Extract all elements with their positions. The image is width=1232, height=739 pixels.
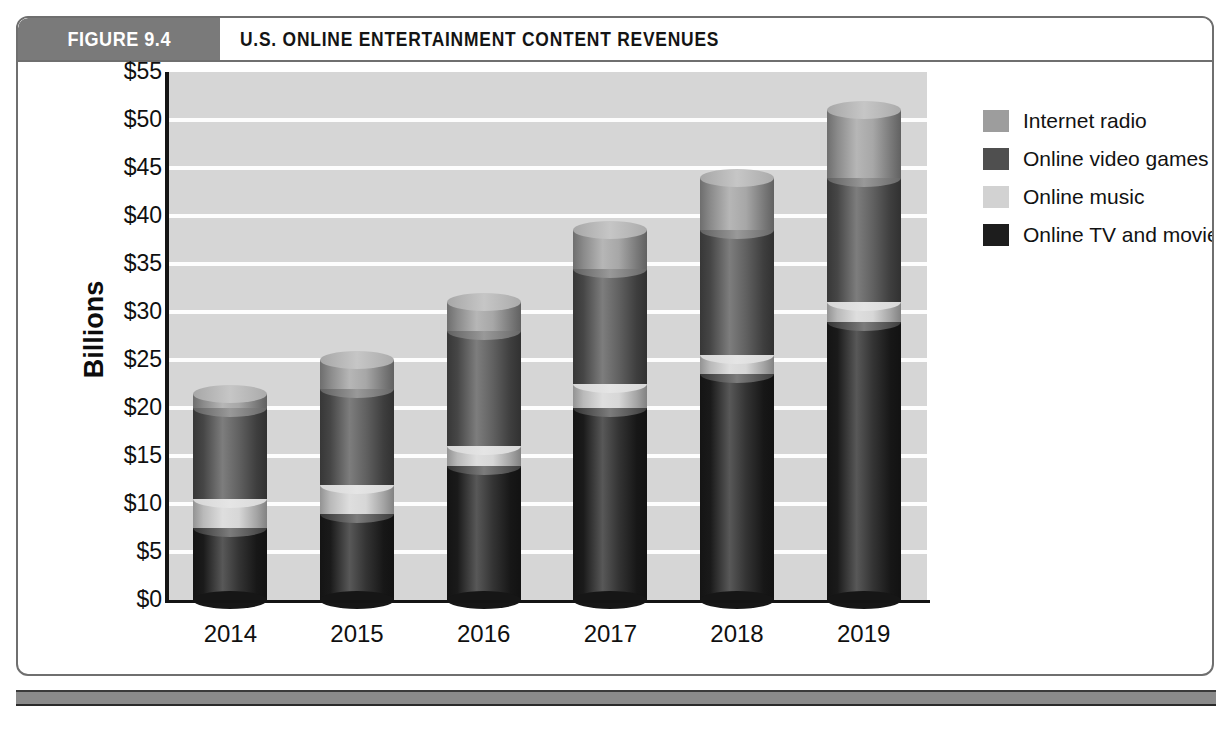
chart-area: Billions $55$50$45$40$35$30$25$20$15$10$… <box>18 62 1212 676</box>
bar-segment[interactable] <box>193 528 267 600</box>
bar-segment[interactable] <box>700 374 774 600</box>
figure-footer-bar <box>16 690 1216 706</box>
y-axis-tick-label: $50 <box>76 108 162 131</box>
bar-segment-body <box>447 331 521 446</box>
figure-number-tab: FIGURE 9.4 <box>18 18 220 60</box>
bar-segment[interactable] <box>827 302 901 321</box>
x-axis-tick-label: 2018 <box>674 620 801 648</box>
bar-segment-body <box>320 514 394 600</box>
y-axis-tick-label: $55 <box>76 60 162 83</box>
bar-segment[interactable] <box>320 514 394 600</box>
x-axis-tick-label: 2017 <box>547 620 674 648</box>
bar-segment-body <box>827 322 901 600</box>
bar-segment-body <box>447 466 521 600</box>
bar-segment[interactable] <box>320 360 394 389</box>
legend-item[interactable]: Online TV and movies <box>983 218 1203 252</box>
bar-group[interactable] <box>294 72 421 600</box>
bar-segment[interactable] <box>320 389 394 485</box>
chart-legend: Internet radioOnline video gamesOnline m… <box>983 104 1203 256</box>
bar-group[interactable] <box>547 72 674 600</box>
y-axis-tick-labels: $55$50$45$40$35$30$25$20$15$10$5$0 <box>66 62 162 610</box>
bar-segment[interactable] <box>827 110 901 177</box>
bar-group[interactable] <box>167 72 294 600</box>
bar-segment-body <box>193 408 267 499</box>
bar-segment[interactable] <box>827 178 901 303</box>
bar-segment[interactable] <box>573 230 647 268</box>
y-axis-tick-label: $10 <box>76 492 162 515</box>
y-axis-tick-label: $15 <box>76 444 162 467</box>
bar-segment[interactable] <box>700 178 774 231</box>
legend-swatch-icon <box>983 186 1009 208</box>
y-axis-tick-label: $40 <box>76 204 162 227</box>
bar-segment-body <box>573 408 647 600</box>
bar-segment[interactable] <box>573 269 647 384</box>
legend-item[interactable]: Internet radio <box>983 104 1203 138</box>
y-axis-tick-label: $20 <box>76 396 162 419</box>
bar-segment[interactable] <box>573 408 647 600</box>
bar-segment-cap <box>700 169 774 187</box>
figure-container: FIGURE 9.4 U.S. ONLINE ENTERTAINMENT CON… <box>16 16 1214 676</box>
bar-segment[interactable] <box>447 446 521 465</box>
bar-segment-body <box>573 269 647 384</box>
legend-item[interactable]: Online music <box>983 180 1203 214</box>
figure-title: U.S. ONLINE ENTERTAINMENT CONTENT REVENU… <box>240 18 719 60</box>
figure-header: FIGURE 9.4 U.S. ONLINE ENTERTAINMENT CON… <box>18 18 1212 62</box>
plot-region: 201420152016201720182019 <box>167 72 927 600</box>
bar-segment-body <box>827 178 901 303</box>
bar-segment[interactable] <box>827 322 901 600</box>
bar-segment-body <box>827 110 901 177</box>
legend-item-label: Online music <box>1023 185 1144 209</box>
bar-segment[interactable] <box>447 466 521 600</box>
y-axis-tick-label: $30 <box>76 300 162 323</box>
bar-segment[interactable] <box>700 355 774 374</box>
bar-segment-body <box>700 230 774 355</box>
y-axis-line <box>165 72 169 603</box>
bar-segment[interactable] <box>193 408 267 499</box>
x-axis-tick-label: 2019 <box>800 620 927 648</box>
bar-group[interactable] <box>420 72 547 600</box>
y-axis-tick-label: $35 <box>76 252 162 275</box>
y-axis-tick-label: $5 <box>76 540 162 563</box>
y-axis-tick-label: $45 <box>76 156 162 179</box>
x-axis-tick-label: 2016 <box>420 620 547 648</box>
bar-segment[interactable] <box>447 302 521 331</box>
legend-item-label: Online video games <box>1023 147 1209 171</box>
bar-segment-cap <box>320 351 394 369</box>
bar-segment[interactable] <box>193 499 267 528</box>
bar-segment[interactable] <box>320 485 394 514</box>
x-axis-tick-label: 2015 <box>294 620 421 648</box>
x-axis-line <box>165 600 930 603</box>
y-axis-tick-label: $0 <box>76 588 162 611</box>
bar-group[interactable] <box>800 72 927 600</box>
legend-swatch-icon <box>983 224 1009 246</box>
bar-segment-body <box>320 389 394 485</box>
bar-segment-cap <box>193 385 267 403</box>
bar-segment-body <box>700 374 774 600</box>
legend-swatch-icon <box>983 110 1009 132</box>
y-axis-tick-label: $25 <box>76 348 162 371</box>
bar-segment[interactable] <box>193 394 267 408</box>
legend-item-label: Internet radio <box>1023 109 1147 133</box>
bar-segment-body <box>193 528 267 600</box>
x-axis-tick-label: 2014 <box>167 620 294 648</box>
bar-group[interactable] <box>674 72 801 600</box>
legend-swatch-icon <box>983 148 1009 170</box>
bar-segment[interactable] <box>573 384 647 408</box>
legend-item-label: Online TV and movies <box>1023 223 1214 247</box>
legend-item[interactable]: Online video games <box>983 142 1203 176</box>
bar-segment[interactable] <box>447 331 521 446</box>
figure-number-label: FIGURE 9.4 <box>67 27 171 51</box>
bar-segment[interactable] <box>700 230 774 355</box>
